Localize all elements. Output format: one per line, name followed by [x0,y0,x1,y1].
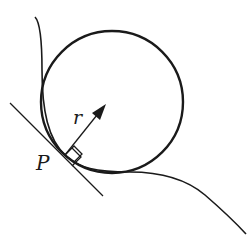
osculating-circle [41,31,183,173]
diagram-canvas: r P [0,0,249,237]
point-label: P [35,151,50,175]
tangent-line [10,103,103,196]
curve [35,17,246,234]
radius-label: r [73,106,84,128]
